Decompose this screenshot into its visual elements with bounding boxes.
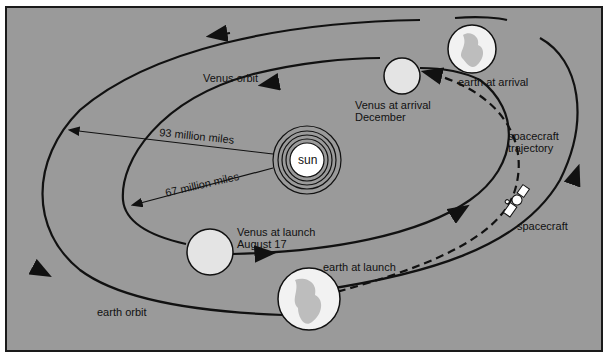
earth-orbit-label: earth orbit (97, 306, 147, 318)
earth-launch-label: earth at launch (323, 261, 396, 273)
trajectory-label: spacecrafttrajectory (508, 130, 559, 154)
earth-at-launch (278, 268, 340, 330)
orbit-diagram (0, 0, 611, 361)
spacecraft-label: spacecraft (517, 220, 568, 232)
sun-label: sun (298, 154, 317, 166)
venus-at-arrival (384, 58, 420, 94)
venus-arrival-label: Venus at arrivalDecember (355, 99, 431, 123)
venus-orbit-label: Venus orbit (203, 72, 258, 84)
earth-arrival-label: earth at arrival (458, 76, 528, 88)
venus-launch-label: Venus at launchAugust 17 (237, 226, 315, 250)
earth-at-arrival (448, 25, 496, 73)
venus-at-launch (187, 229, 233, 275)
